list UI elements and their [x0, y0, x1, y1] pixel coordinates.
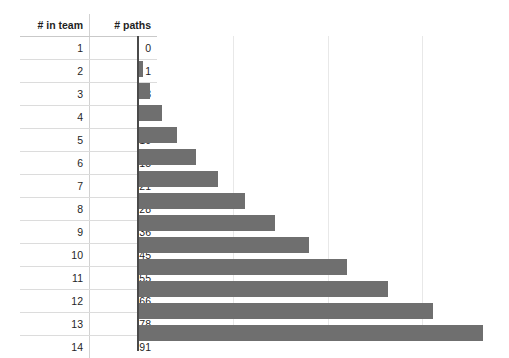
bar-row [139, 102, 509, 124]
bar-row [139, 322, 509, 344]
cell-in-team: 7 [20, 175, 90, 198]
bar [139, 281, 388, 297]
bar-row [139, 36, 509, 58]
cell-in-team: 12 [20, 290, 90, 313]
cell-in-team: 6 [20, 152, 90, 175]
bar [139, 259, 347, 275]
bar-row [139, 212, 509, 234]
cell-in-team: 1 [20, 37, 90, 60]
bar [139, 193, 245, 209]
bar [139, 303, 433, 319]
cell-in-team: 3 [20, 83, 90, 106]
cell-in-team: 5 [20, 129, 90, 152]
bar [139, 237, 309, 253]
cell-in-team: 8 [20, 198, 90, 221]
cell-in-team: 11 [20, 267, 90, 290]
bar [139, 325, 483, 341]
bar [139, 149, 196, 165]
cell-in-team: 2 [20, 60, 90, 83]
bar [139, 61, 143, 77]
cell-in-team: 14 [20, 336, 90, 358]
bar-row [139, 278, 509, 300]
cell-in-team: 4 [20, 106, 90, 129]
bars-container [139, 36, 509, 338]
bar [139, 127, 177, 143]
bar [139, 83, 150, 99]
bar-row [139, 124, 509, 146]
bar-row [139, 168, 509, 190]
bar [139, 215, 275, 231]
bar [139, 105, 162, 121]
cell-in-team: 13 [20, 313, 90, 336]
cell-in-team: 10 [20, 244, 90, 267]
bar-row [139, 146, 509, 168]
bar-row [139, 190, 509, 212]
bar-row [139, 300, 509, 322]
bar [139, 171, 218, 187]
bar-row [139, 58, 509, 80]
column-header-in-team: # in team [20, 14, 90, 37]
plot-area [137, 14, 509, 338]
bar-row [139, 80, 509, 102]
bar-row [139, 256, 509, 278]
cell-in-team: 9 [20, 221, 90, 244]
bar-row [139, 234, 509, 256]
